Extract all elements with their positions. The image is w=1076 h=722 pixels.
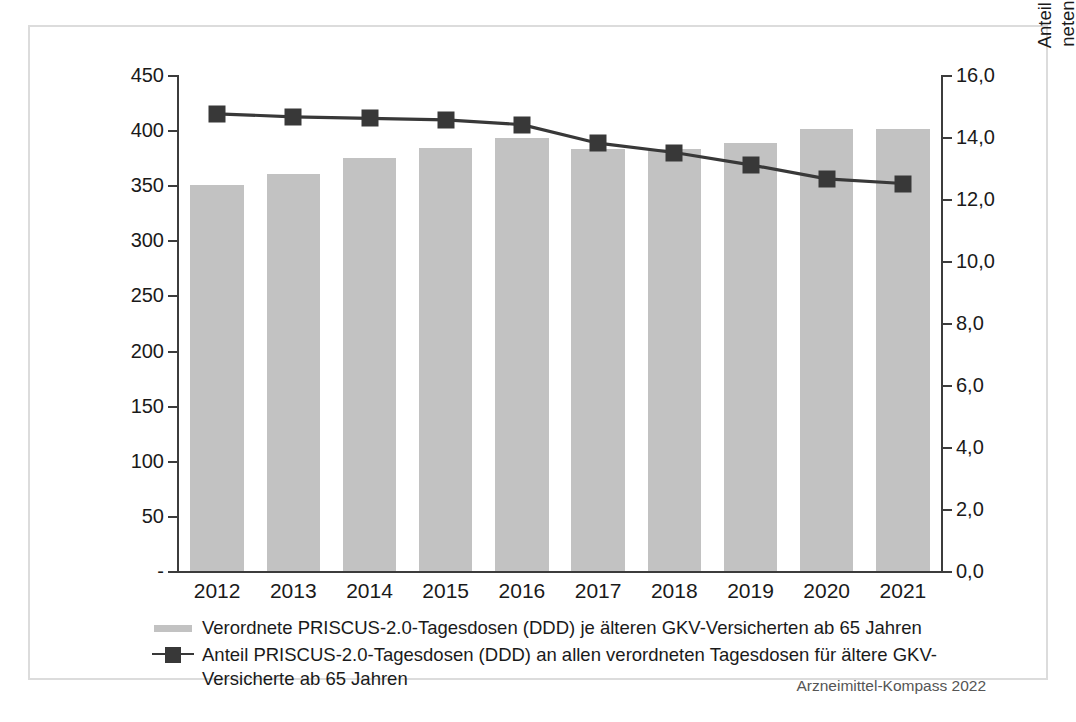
right-tick-label: 2,0 — [956, 499, 984, 519]
left-tick — [168, 295, 177, 297]
x-axis-label: 2021 — [880, 579, 927, 603]
left-tick-label: 250 — [131, 285, 164, 305]
right-tick-label: 8,0 — [956, 313, 984, 333]
x-axis-label: 2018 — [651, 579, 698, 603]
right-tick-label: 16,0 — [956, 65, 995, 85]
x-axis-labels: 2012201320142015201620172018201920202021 — [179, 579, 941, 611]
right-axis-title: Anteil PRISCUS-2.0-Tagesdosen (DDD) an a… — [1034, 0, 1076, 67]
left-tick — [168, 406, 177, 408]
x-axis-label: 2012 — [194, 579, 241, 603]
right-tick — [943, 137, 952, 139]
x-axis-label: 2015 — [422, 579, 469, 603]
right-tick-label: 0,0 — [956, 561, 984, 581]
right-tick — [943, 199, 952, 201]
left-tick-label: 300 — [131, 230, 164, 250]
line-marker — [361, 110, 378, 127]
left-axis-title: Verordnete PRISCUS-2.0-Tagesdosen (DDD) … — [0, 0, 29, 67]
x-axis-label: 2017 — [575, 579, 622, 603]
legend-item-bars: Verordnete PRISCUS-2.0-Tagesdosen (DDD) … — [150, 615, 980, 641]
x-axis-label: 2019 — [727, 579, 774, 603]
right-tick — [943, 75, 952, 77]
left-tick-label: 100 — [131, 451, 164, 471]
left-tick-label: 200 — [131, 341, 164, 361]
right-tick — [943, 385, 952, 387]
left-tick — [168, 130, 177, 132]
x-axis-label: 2020 — [803, 579, 850, 603]
line-marker — [894, 175, 911, 192]
left-tick-label: 400 — [131, 120, 164, 140]
right-tick — [943, 509, 952, 511]
right-tick — [943, 447, 952, 449]
left-tick — [168, 240, 177, 242]
left-tick — [168, 461, 177, 463]
legend-bar-swatch — [150, 615, 196, 640]
left-tick — [168, 351, 177, 353]
line-marker — [742, 156, 759, 173]
left-tick — [168, 516, 177, 518]
right-tick-label: 4,0 — [956, 437, 984, 457]
right-tick-label: 14,0 — [956, 127, 995, 147]
line-marker — [818, 170, 835, 187]
line-marker — [285, 108, 302, 125]
right-tick-label: 12,0 — [956, 189, 995, 209]
left-tick — [168, 185, 177, 187]
left-tick-label: 450 — [131, 65, 164, 85]
left-tick-label: 50 — [142, 506, 164, 526]
source-note: Arzneimittel-Kompass 2022 — [796, 677, 986, 695]
x-axis-label: 2016 — [499, 579, 546, 603]
x-axis-label: 2014 — [346, 579, 393, 603]
left-tick-label: 150 — [131, 396, 164, 416]
legend-item-bars-label: Verordnete PRISCUS-2.0-Tagesdosen (DDD) … — [202, 615, 980, 641]
right-tick-label: 10,0 — [956, 251, 995, 271]
line-marker — [590, 135, 607, 152]
left-tick — [168, 75, 177, 77]
right-tick — [943, 571, 952, 573]
right-tick-label: 6,0 — [956, 375, 984, 395]
line-marker — [513, 116, 530, 133]
right-tick — [943, 323, 952, 325]
line-series-path — [179, 75, 941, 571]
left-tick-label: 350 — [131, 175, 164, 195]
x-axis-label: 2013 — [270, 579, 317, 603]
right-tick — [943, 261, 952, 263]
line-marker — [666, 144, 683, 161]
line-marker — [209, 105, 226, 122]
chart-frame: 45040035030025020015010050- 16,014,012,0… — [28, 25, 1048, 680]
legend-line-swatch — [150, 642, 196, 667]
plot-area: 45040035030025020015010050- 16,014,012,0… — [179, 75, 941, 571]
left-tick-label: - — [157, 561, 164, 581]
line-marker — [437, 111, 454, 128]
left-tick — [168, 571, 177, 573]
x-axis-line — [177, 571, 943, 573]
